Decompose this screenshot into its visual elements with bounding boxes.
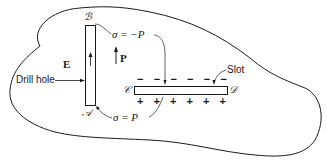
label-sigma-positive: σ = P bbox=[113, 112, 138, 123]
negative-charge: − bbox=[137, 74, 143, 85]
label-field-e: E bbox=[63, 59, 70, 70]
label-drill-hole: Drill hole bbox=[16, 75, 55, 85]
negative-charge: − bbox=[221, 74, 227, 85]
negative-charge: − bbox=[187, 74, 193, 85]
negative-charge-row: − − − − − − bbox=[137, 74, 227, 85]
sigma-pos-leader-to-a bbox=[97, 107, 112, 118]
arrowhead-icon bbox=[96, 106, 100, 110]
positive-charge: + bbox=[170, 96, 176, 107]
negative-charge: − bbox=[154, 74, 160, 85]
label-polarization-p: P bbox=[120, 53, 127, 64]
positive-charge: + bbox=[154, 96, 160, 107]
negative-charge: − bbox=[204, 74, 210, 85]
label-point-d: 𝒟 bbox=[229, 85, 237, 95]
label-point-a: 𝒜 bbox=[82, 108, 91, 118]
label-point-b: ℬ bbox=[84, 12, 92, 22]
positive-charge: + bbox=[220, 96, 226, 107]
sigma-neg-leader-to-b bbox=[95, 24, 111, 34]
negative-charge: − bbox=[170, 74, 176, 85]
positive-charge: + bbox=[137, 96, 143, 107]
positive-charge-row: + + + + + + bbox=[137, 96, 226, 107]
slot-cavity bbox=[135, 87, 228, 95]
arrowhead-icon bbox=[114, 46, 118, 52]
arrowhead-icon bbox=[80, 79, 85, 82]
positive-charge: + bbox=[187, 96, 193, 107]
positive-charge: + bbox=[203, 96, 209, 107]
label-sigma-negative: σ = −P bbox=[112, 29, 145, 40]
label-point-c: 𝒞 bbox=[123, 85, 130, 95]
label-slot: Slot bbox=[227, 65, 244, 75]
